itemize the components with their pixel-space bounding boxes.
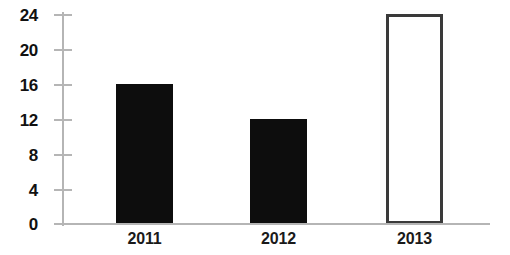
bar-2013[interactable]: [386, 14, 443, 224]
y-axis-label-16: 16: [0, 77, 38, 94]
y-axis-tick-20: [54, 49, 72, 51]
y-axis-tick-12: [54, 119, 72, 121]
y-axis-label-4: 4: [0, 182, 38, 199]
x-axis-label-2013: 2013: [374, 229, 455, 248]
x-axis-line: [62, 223, 490, 225]
y-axis-label-8: 8: [0, 147, 38, 164]
y-axis-label-24: 24: [0, 7, 38, 24]
x-axis-label-2011: 2011: [104, 229, 185, 248]
y-axis-tick-8: [54, 154, 72, 156]
y-axis-label-20: 20: [0, 42, 38, 59]
y-axis-tick-24: [54, 14, 72, 16]
y-axis-tick-16: [54, 84, 72, 86]
bar-2012[interactable]: [250, 119, 307, 224]
bar-2011[interactable]: [116, 84, 173, 224]
x-axis-label-2012: 2012: [238, 229, 319, 248]
y-axis-label-0: 0: [0, 216, 38, 233]
y-axis-label-12: 12: [0, 112, 38, 129]
y-axis-tick-4: [54, 189, 72, 191]
bar-chart: 24 20 16 12 8 4 0 2011 2012 2013: [0, 0, 510, 255]
